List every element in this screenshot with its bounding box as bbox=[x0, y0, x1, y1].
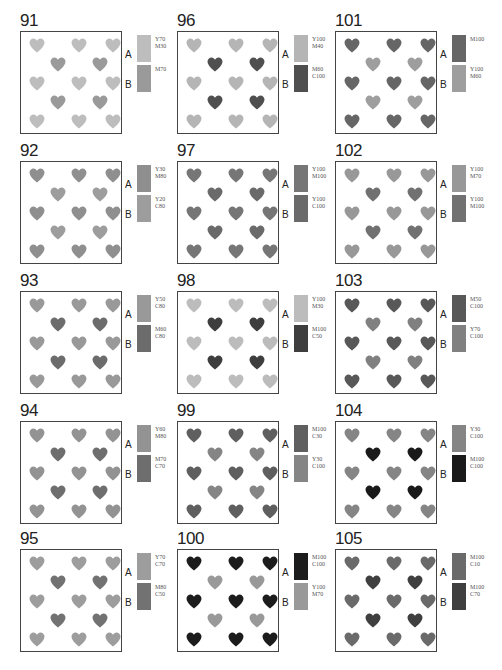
heart-icon-b bbox=[249, 447, 265, 462]
heart-icon-a bbox=[386, 504, 402, 519]
heart-icon-a bbox=[29, 298, 45, 313]
swatch-a bbox=[137, 295, 151, 322]
swatch-b bbox=[294, 455, 308, 482]
heart-icon-a bbox=[344, 632, 360, 647]
swatch-b bbox=[294, 583, 308, 610]
label-a: A bbox=[125, 440, 132, 450]
swatch-panel: 105AM100 C10BM100 C70 bbox=[330, 528, 490, 658]
heart-icon-a bbox=[344, 244, 360, 259]
swatch-panel: 96AY100 M40BM60 C100 bbox=[172, 10, 332, 140]
heart-icon-a bbox=[420, 336, 436, 351]
heart-icon-b bbox=[92, 57, 108, 72]
heart-icon-a bbox=[262, 298, 278, 313]
panel-number: 92 bbox=[20, 142, 38, 159]
heart-pattern-box bbox=[335, 31, 437, 134]
heart-icon-b bbox=[50, 225, 66, 240]
swatch-b bbox=[294, 325, 308, 352]
heart-icon-a bbox=[262, 76, 278, 91]
heart-icon-a bbox=[420, 114, 436, 129]
heart-icon-a bbox=[71, 168, 87, 183]
heart-icon-b bbox=[249, 613, 265, 628]
heart-icon-a bbox=[186, 244, 202, 259]
heart-icon-a bbox=[29, 594, 45, 609]
heart-icon-a bbox=[420, 466, 436, 481]
swatch-b bbox=[452, 195, 466, 222]
heart-icon-a bbox=[386, 336, 402, 351]
heart-icon-a bbox=[186, 38, 202, 53]
heart-icon-a bbox=[344, 428, 360, 443]
heart-icon-a bbox=[29, 556, 45, 571]
panel-number: 91 bbox=[20, 12, 38, 29]
heart-icon-b bbox=[207, 187, 223, 202]
heart-icon-b bbox=[407, 613, 423, 628]
heart-icon-a bbox=[420, 632, 436, 647]
heart-icon-b bbox=[365, 187, 381, 202]
label-b: B bbox=[125, 210, 132, 220]
heart-icon-b bbox=[92, 317, 108, 332]
heart-icon-a bbox=[262, 556, 278, 571]
heart-icon-a bbox=[262, 594, 278, 609]
heart-icon-b bbox=[407, 447, 423, 462]
heart-icon-a bbox=[228, 244, 244, 259]
heart-icon-a bbox=[420, 594, 436, 609]
heart-icon-a bbox=[228, 298, 244, 313]
panel-number: 99 bbox=[177, 402, 195, 419]
heart-icon-a bbox=[71, 374, 87, 389]
panel-number: 103 bbox=[335, 272, 362, 289]
label-a: A bbox=[282, 180, 289, 190]
heart-icon-a bbox=[105, 206, 121, 221]
heart-icon-b bbox=[407, 575, 423, 590]
heart-pattern-box bbox=[177, 291, 279, 394]
heart-icon-a bbox=[386, 632, 402, 647]
cmyk-b-label: M100 C50 bbox=[312, 326, 326, 339]
label-b: B bbox=[440, 470, 447, 480]
swatch-a bbox=[137, 553, 151, 580]
cmyk-b-label: Y70 C100 bbox=[470, 326, 483, 339]
heart-icon-a bbox=[29, 76, 45, 91]
heart-icon-b bbox=[207, 95, 223, 110]
swatch-a bbox=[452, 165, 466, 192]
heart-icon-a bbox=[105, 244, 121, 259]
heart-icon-b bbox=[407, 485, 423, 500]
swatch-b bbox=[137, 583, 151, 610]
heart-icon-a bbox=[228, 428, 244, 443]
heart-icon-a bbox=[344, 114, 360, 129]
swatch-b bbox=[452, 325, 466, 352]
heart-pattern-box bbox=[20, 291, 122, 394]
heart-icon-b bbox=[407, 57, 423, 72]
heart-icon-b bbox=[207, 485, 223, 500]
cmyk-a-label: Y30 M80 bbox=[155, 166, 166, 179]
label-b: B bbox=[282, 598, 289, 608]
heart-icon-b bbox=[50, 575, 66, 590]
heart-icon-a bbox=[71, 556, 87, 571]
swatch-a bbox=[294, 295, 308, 322]
heart-icon-a bbox=[186, 466, 202, 481]
swatch-panel: 92AY30 M80BY20 C80 bbox=[15, 140, 175, 270]
heart-icon-a bbox=[228, 76, 244, 91]
heart-icon-a bbox=[71, 504, 87, 519]
heart-icon-a bbox=[228, 168, 244, 183]
heart-pattern-box bbox=[335, 161, 437, 264]
label-a: A bbox=[125, 50, 132, 60]
label-a: A bbox=[282, 50, 289, 60]
heart-icon-a bbox=[29, 206, 45, 221]
heart-icon-b bbox=[92, 575, 108, 590]
swatch-panel: 98AY100 M30BM100 C50 bbox=[172, 270, 332, 400]
heart-icon-a bbox=[71, 298, 87, 313]
panel-number: 104 bbox=[335, 402, 362, 419]
cmyk-b-label: Y100 M60 bbox=[470, 66, 483, 79]
panel-number: 94 bbox=[20, 402, 38, 419]
cmyk-b-label: Y100 M70 bbox=[312, 584, 325, 597]
panel-number: 98 bbox=[177, 272, 195, 289]
label-a: A bbox=[440, 440, 447, 450]
swatch-a bbox=[294, 553, 308, 580]
heart-pattern-box bbox=[335, 549, 437, 652]
cmyk-a-label: M100 C100 bbox=[312, 554, 326, 567]
label-a: A bbox=[440, 568, 447, 578]
heart-icon-a bbox=[386, 244, 402, 259]
heart-icon-b bbox=[50, 95, 66, 110]
heart-icon-a bbox=[186, 336, 202, 351]
cmyk-a-label: Y60 M80 bbox=[155, 426, 166, 439]
heart-icon-b bbox=[207, 317, 223, 332]
swatch-a bbox=[294, 425, 308, 452]
